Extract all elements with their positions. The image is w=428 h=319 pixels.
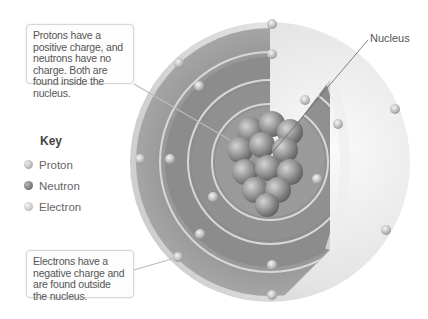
callout-protons-neutrons: Protons have a positive charge, and neut… xyxy=(26,24,134,84)
key-legend: Key Proton Neutron Electron xyxy=(24,134,81,217)
key-item-electron: Electron xyxy=(24,196,81,217)
key-title: Key xyxy=(40,134,81,148)
electron-icon xyxy=(24,202,33,211)
key-item-neutron: Neutron xyxy=(24,175,81,196)
key-item-proton: Proton xyxy=(24,154,81,175)
callout-electrons: Electrons have a negative charge and are… xyxy=(26,250,134,298)
neutron-icon xyxy=(24,181,33,190)
nucleus-label: Nucleus xyxy=(370,32,410,44)
proton-icon xyxy=(24,160,33,169)
leader-line-electrons xyxy=(134,258,175,270)
